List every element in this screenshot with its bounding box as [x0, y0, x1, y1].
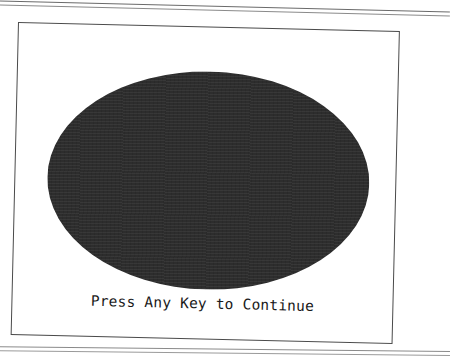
screen-frame[interactable]: Press Any Key to Continue: [11, 22, 400, 344]
press-any-key-prompt: Press Any Key to Continue: [12, 291, 392, 316]
filled-ellipse: [45, 68, 372, 294]
